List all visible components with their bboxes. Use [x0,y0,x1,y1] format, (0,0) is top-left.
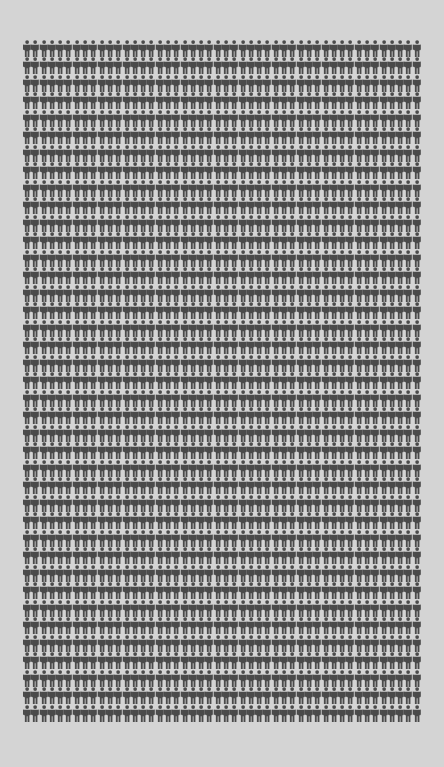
person-icon [114,180,122,197]
person-icon [131,495,139,512]
person-icon [164,460,172,477]
person-icon [205,495,213,512]
person-icon [288,390,296,407]
person-icon [123,127,131,145]
person-icon [89,285,97,302]
person-icon [380,425,388,443]
person-icon [280,617,288,635]
person-icon [139,705,147,722]
person-icon [222,57,230,74]
person-icon [214,530,222,547]
person-icon [388,215,396,232]
person-icon [247,530,255,547]
person-icon [139,57,147,74]
person-icon [147,582,155,599]
person-icon [89,145,97,162]
person-icon [230,372,238,389]
person-icon [413,617,421,635]
person-icon [89,460,97,477]
person-icon [404,460,412,477]
person-icon [214,600,222,617]
person-icon [255,197,263,214]
person-icon [388,267,396,284]
person-icon [197,75,205,92]
person-icon [56,425,64,443]
person-icon [322,582,330,599]
person-icon [114,285,122,302]
person-icon [280,390,288,407]
person-icon [156,705,164,722]
person-icon [123,600,131,617]
person-icon [230,232,238,250]
person-icon [48,180,56,197]
person-icon [247,442,255,459]
person-icon [404,75,412,92]
person-icon [322,565,330,582]
person-icon [330,197,338,214]
person-icon [40,197,48,214]
person-icon [197,512,205,530]
person-icon [172,372,180,389]
person-icon [355,355,363,372]
person-icon [263,635,271,652]
person-icon [156,197,164,214]
person-icon [164,687,172,704]
person-icon [388,565,396,582]
person-icon [214,40,222,57]
person-icon [123,460,131,477]
person-icon [313,215,321,232]
person-icon [106,162,114,179]
person-icon [255,582,263,599]
person-icon [288,635,296,652]
person-icon [197,390,205,407]
person-icon [272,425,280,443]
person-icon [404,180,412,197]
person-icon [230,635,238,652]
person-icon [98,512,106,530]
person-icon [89,442,97,459]
person-icon [131,460,139,477]
person-icon [164,635,172,652]
person-icon [222,162,230,179]
person-icon [297,337,305,354]
person-icon [346,337,354,354]
person-icon [239,477,247,494]
person-icon [288,57,296,74]
person-icon [230,652,238,669]
person-icon [197,110,205,127]
person-icon [147,512,155,530]
person-icon [114,57,122,74]
person-icon [23,92,31,109]
person-icon [288,110,296,127]
person-icon [380,530,388,547]
person-icon [346,302,354,319]
person-icon [181,705,189,722]
person-icon [404,687,412,704]
person-icon [123,110,131,127]
person-icon [222,285,230,302]
person-icon [156,232,164,250]
person-icon [413,407,421,424]
person-icon [371,302,379,319]
person-icon [40,372,48,389]
person-icon [114,215,122,232]
person-icon [239,267,247,284]
person-icon [355,390,363,407]
person-icon [338,687,346,704]
person-icon [23,285,31,302]
person-icon [56,40,64,57]
person-icon [147,547,155,564]
person-icon [371,372,379,389]
person-icon [230,530,238,547]
person-icon [355,162,363,179]
person-icon [280,145,288,162]
person-icon [413,460,421,477]
person-icon [355,705,363,722]
person-icon [139,512,147,530]
person-icon [131,670,139,687]
person-icon [239,705,247,722]
person-icon [106,267,114,284]
person-icon [247,565,255,582]
person-icon [31,705,39,722]
person-icon [247,495,255,512]
